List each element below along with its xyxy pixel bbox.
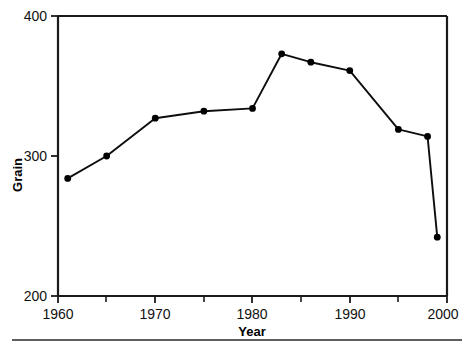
data-point: [346, 67, 353, 74]
data-point: [152, 115, 159, 122]
data-point: [307, 59, 314, 66]
y-tick-label-200: 200: [24, 288, 48, 304]
data-point: [64, 175, 71, 182]
data-point: [424, 133, 431, 140]
data-point: [395, 126, 402, 133]
x-tick-label-1980: 1980: [236, 306, 267, 322]
data-point: [200, 108, 207, 115]
data-point: [278, 50, 285, 57]
plot-frame: [58, 16, 447, 296]
series-line-grain: [68, 54, 438, 237]
x-tick-label-2000: 2000: [427, 306, 458, 322]
data-series-grain: [64, 50, 440, 240]
chart-figure: 400 300 200 1960 1970 1980 1990 2000: [0, 0, 472, 350]
x-axis-tick-labels: 1960 1970 1980 1990 2000: [42, 306, 458, 322]
x-axis-title: Year: [238, 324, 265, 339]
y-tick-label-300: 300: [24, 148, 48, 164]
y-axis-title: Grain: [10, 158, 25, 192]
x-tick-label-1960: 1960: [42, 306, 73, 322]
x-tick-label-1970: 1970: [139, 306, 170, 322]
data-point: [434, 234, 441, 241]
y-tick-label-400: 400: [24, 8, 48, 24]
grain-vs-year-line-chart: 400 300 200 1960 1970 1980 1990 2000: [0, 0, 472, 350]
data-point: [103, 153, 110, 160]
x-tick-label-1990: 1990: [334, 306, 365, 322]
y-axis-tick-labels: 400 300 200: [24, 8, 48, 304]
data-point: [249, 105, 256, 112]
